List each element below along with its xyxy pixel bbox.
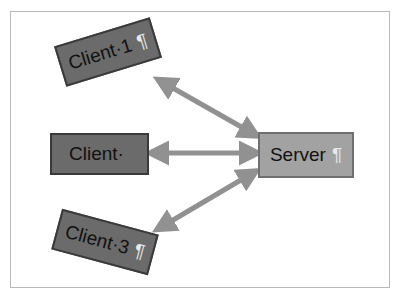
node-server[interactable]: Server ¶ <box>258 132 354 178</box>
diagram-canvas: Client·1 ¶ Client· Client·3 ¶ Server ¶ <box>0 0 405 299</box>
node-client-3-label: Client·3 <box>63 221 132 259</box>
paragraph-mark-icon: ¶ <box>134 30 150 54</box>
paragraph-mark-icon: ¶ <box>132 239 148 263</box>
node-server-label: Server <box>270 144 326 166</box>
node-client-2[interactable]: Client· <box>50 133 149 175</box>
paragraph-mark-icon: ¶ <box>332 144 342 166</box>
node-client-1-label: Client·1 <box>66 34 135 74</box>
node-client-2-label: Client· <box>69 143 124 165</box>
